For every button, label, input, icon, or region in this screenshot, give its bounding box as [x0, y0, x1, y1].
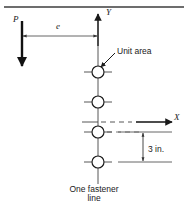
- unit-area-leader-line: [101, 53, 115, 67]
- figure-drawing-canvas: [0, 0, 188, 212]
- caption-line-2: line: [61, 194, 127, 203]
- figure-caption: One fastener line: [61, 185, 127, 203]
- eccentricity-label: e: [56, 22, 60, 32]
- y-axis-label: Y: [106, 8, 111, 18]
- x-axis-label: X: [174, 113, 180, 123]
- engineering-figure: P e Y X Unit area 3 in. One fastener lin…: [0, 0, 188, 212]
- fastener-1: [84, 66, 112, 78]
- fastener-3: [84, 126, 112, 138]
- fastener-4: [84, 156, 112, 168]
- spacing-dimension-label: 3 in.: [148, 145, 164, 154]
- load-label-P: P: [13, 15, 19, 25]
- fastener-2: [84, 96, 112, 108]
- unit-area-label: Unit area: [117, 47, 152, 56]
